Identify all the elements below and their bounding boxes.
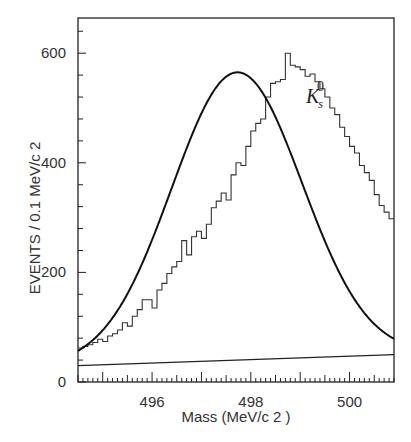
- y-tick-label: 400: [41, 154, 66, 171]
- x-axis-title-main: Mass (MeV/c 2 ): [181, 408, 290, 425]
- y-tick-label: 600: [41, 44, 66, 61]
- histogram-bars: [78, 53, 394, 348]
- histogram-chart: 0200400600496498500 Mass (MeV/c 2 ) EVEN…: [0, 0, 411, 442]
- background-line: [78, 355, 394, 366]
- y-axis-title: EVENTS / 0.1 MeV/c 2: [26, 142, 43, 295]
- gaussian-fit-line: [78, 72, 394, 351]
- x-tick-label: 500: [337, 393, 362, 410]
- particle-label-ks0: Ks0: [305, 79, 324, 111]
- fit-curve: [78, 72, 394, 365]
- x-tick-label: 496: [140, 393, 165, 410]
- y-tick-label: 0: [58, 373, 66, 390]
- y-tick-label: 200: [41, 263, 66, 280]
- x-axis-title: Mass (MeV/c 2 ): [181, 408, 290, 425]
